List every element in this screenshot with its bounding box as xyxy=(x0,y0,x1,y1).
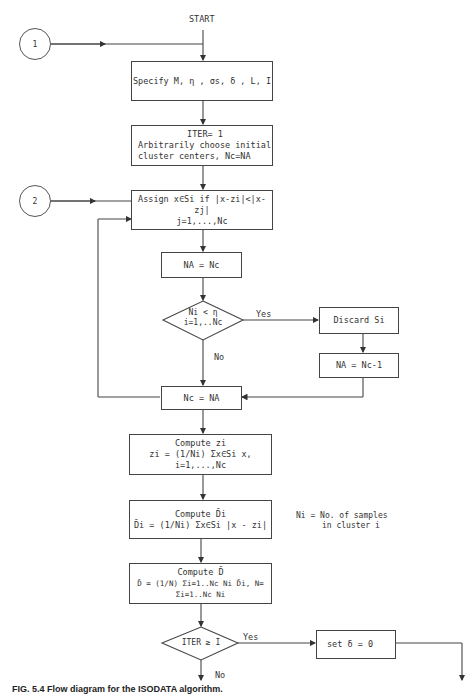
yes-label-1: Yes xyxy=(256,309,271,319)
compute-centers-box: Compute zi zi = (1/Ni) Σx∈Si x, i=1,...,… xyxy=(129,434,272,475)
compute-di-title: Compute D̄i xyxy=(175,509,226,520)
note-line-1: Ni = No. of samples xyxy=(296,511,388,520)
cluster-size-decision: Ni < η i=1,..Nc xyxy=(168,308,238,328)
compute-d-title: Compute D̄ xyxy=(177,567,223,578)
assign-line-1: Assign x∈Si if |x-zi|<|x-zj| xyxy=(132,194,272,216)
yes-label-2: Yes xyxy=(243,632,258,642)
nc-equals-na-box: Nc = NA xyxy=(161,386,242,410)
discard-cluster-box: Discard Si xyxy=(319,307,399,334)
assign-line-2: j=1,...,Nc xyxy=(176,216,227,227)
figure-caption: FIG. 5.4 Flow diagram for the ISODATA al… xyxy=(12,684,223,695)
start-label: START xyxy=(189,14,215,24)
connector-1-label: 1 xyxy=(33,40,38,49)
decision-1-line-1: Ni < η xyxy=(168,308,238,318)
init-line-3: cluster centers, Nc=NA xyxy=(138,151,251,162)
init-line-1: ITER= 1 xyxy=(187,129,223,140)
note-line-2: in cluster i xyxy=(296,521,380,530)
init-line-2: Arbitrarily choose initial xyxy=(138,140,271,151)
decision-2-text: ITER ≥ I xyxy=(182,638,221,647)
connector-1: 1 xyxy=(19,28,51,60)
na-equals-nc-minus-1-box: NA = Nc-1 xyxy=(319,353,399,378)
compute-avg-distance-box: Compute D̄i D̄i = (1/Ni) Σx∈Si |x - zi| xyxy=(129,500,272,539)
set-delta-box: set δ = 0 xyxy=(316,630,396,659)
iteration-limit-decision: ITER ≥ I xyxy=(172,638,230,648)
compute-d-formula: D̄ = (1/N) Σi=1..Nc Ni D̄i, N= Σi=1..Nc … xyxy=(130,578,271,600)
nc-equals-na-text: Nc = NA xyxy=(184,393,220,404)
no-label-2: No xyxy=(215,670,225,680)
na-equals-nc-text: NA = Nc xyxy=(184,260,220,271)
decision-1-line-2: i=1,..Nc xyxy=(168,318,238,328)
connector-2-label: 2 xyxy=(33,197,38,206)
specify-text: Specify M, η , σs, δ , L, I xyxy=(133,76,271,87)
initialize-box: ITER= 1 Arbitrarily choose initial clust… xyxy=(131,125,273,166)
cluster-size-note: Ni = No. of samples in cluster i xyxy=(296,511,388,531)
specify-parameters-box: Specify M, η , σs, δ , L, I xyxy=(131,61,273,101)
assign-samples-box: Assign x∈Si if |x-zi|<|x-zj| j=1,...,Nc xyxy=(131,190,273,230)
discard-text: Discard Si xyxy=(333,315,384,326)
connector-2: 2 xyxy=(19,185,51,217)
no-label-1: No xyxy=(214,352,224,362)
compute-z-title: Compute zi xyxy=(175,438,226,449)
set-delta-text: set δ = 0 xyxy=(327,639,373,650)
na-equals-nc-minus-1-text: NA = Nc-1 xyxy=(336,360,382,371)
compute-z-formula: zi = (1/Ni) Σx∈Si x, i=1,...,Nc xyxy=(130,449,271,471)
compute-overall-distance-box: Compute D̄ D̄ = (1/N) Σi=1..Nc Ni D̄i, N… xyxy=(129,563,272,604)
na-equals-nc-box: NA = Nc xyxy=(161,252,242,278)
compute-di-formula: D̄i = (1/Ni) Σx∈Si |x - zi| xyxy=(134,520,267,531)
